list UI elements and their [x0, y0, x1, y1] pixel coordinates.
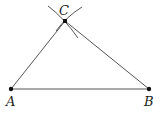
- label-A: A: [5, 94, 15, 109]
- point-A: [9, 87, 13, 91]
- point-B: [147, 87, 151, 91]
- segment-BC: [65, 21, 149, 89]
- point-C: [63, 19, 67, 23]
- segment-AC: [11, 21, 65, 89]
- triangle-diagram: A B C: [0, 0, 161, 115]
- label-C: C: [59, 3, 69, 18]
- label-B: B: [143, 94, 154, 109]
